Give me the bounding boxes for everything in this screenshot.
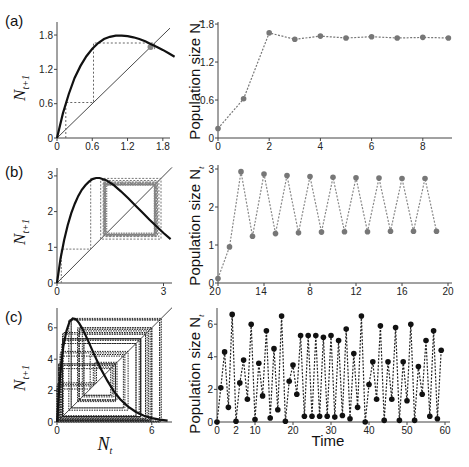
data-point	[286, 378, 292, 384]
data-point	[420, 35, 426, 41]
data-point	[328, 333, 334, 339]
data-point	[290, 362, 296, 368]
data-point	[353, 175, 359, 181]
y-tick-label: 6	[207, 319, 213, 330]
data-point	[309, 413, 315, 419]
y-tick-label: 0.6	[39, 98, 53, 109]
xlabel-time: Time	[312, 432, 345, 449]
x-tick-label: 60	[439, 425, 451, 436]
xlabel-left-c: Nt	[97, 434, 113, 456]
x-tick-label: 6	[149, 425, 155, 436]
timeseries-plot-3	[215, 169, 439, 281]
axes-1: 0246800.61.21.8	[200, 19, 452, 152]
data-point	[365, 229, 371, 235]
data-point	[222, 349, 228, 355]
y-tick-label: 1	[47, 242, 53, 253]
ylabel-left-b: Nt+1	[10, 219, 31, 246]
data-point	[388, 229, 394, 235]
x-tick-label: 8	[420, 141, 426, 152]
x-tick-label: 4	[261, 286, 267, 297]
data-point	[292, 36, 298, 42]
ylabel-left-c: Nt+1	[10, 365, 31, 392]
data-point	[393, 325, 399, 331]
y-tick-label: 0	[207, 417, 213, 428]
data-point	[296, 230, 302, 236]
x-tick-label: 1.8	[156, 141, 170, 152]
data-point	[381, 418, 387, 424]
data-point	[340, 413, 346, 419]
data-point	[431, 328, 437, 334]
x-tick-label: 12	[350, 286, 362, 297]
data-point	[374, 396, 380, 402]
x-tick-label: 1.2	[121, 141, 135, 152]
data-point	[330, 175, 336, 181]
data-point	[332, 414, 338, 420]
data-point	[369, 34, 375, 40]
data-point	[271, 346, 277, 352]
data-point	[419, 391, 425, 397]
x-tick-overlay-label: 1	[255, 286, 261, 297]
data-point	[423, 338, 429, 344]
svg-text:Population size Nt: Population size Nt	[186, 20, 206, 140]
data-point	[317, 413, 323, 419]
y-tick-label: 1.2	[39, 64, 53, 75]
data-point	[218, 385, 224, 391]
x-tick-label: 0	[54, 141, 60, 152]
data-point	[241, 96, 247, 102]
x-tick-label: 0	[214, 425, 220, 436]
y-tick-label: 4	[207, 351, 213, 362]
data-point	[273, 231, 279, 237]
svg-text:Population size Nt: Population size Nt	[186, 166, 206, 286]
y-tick-label: 2	[207, 384, 213, 395]
y-tick-label: 1	[208, 240, 214, 251]
x-tick-label: 20	[287, 425, 299, 436]
panel-label-c: (c)	[5, 308, 23, 325]
x-tick-label: 16	[396, 286, 408, 297]
y-tick-label: 0	[47, 133, 53, 144]
data-point	[435, 416, 441, 422]
timeseries-plot-5	[214, 312, 444, 425]
data-point	[355, 405, 361, 411]
data-point	[279, 313, 285, 319]
data-point	[321, 334, 327, 340]
x-tick-label: 8	[307, 286, 313, 297]
y-tick-label: 0	[47, 278, 53, 289]
ylabel-left-a: Nt+1	[10, 75, 31, 102]
x-tick-label: 0	[215, 141, 221, 152]
x-tick-label: 0.6	[85, 141, 99, 152]
x-tick-label: 6	[369, 141, 375, 152]
data-point	[408, 321, 414, 327]
y-tick-label: 4	[47, 354, 53, 365]
x-tick-label: 50	[401, 425, 413, 436]
data-point	[264, 328, 270, 334]
x-tick-label: 2	[266, 141, 272, 152]
y-tick-label: 2	[208, 202, 214, 213]
x-tick-label: 4	[318, 141, 324, 152]
data-point	[351, 351, 357, 357]
x-tick-label: 3	[161, 286, 167, 297]
data-point	[399, 176, 405, 182]
data-point	[397, 418, 403, 424]
panel-label-b: (b)	[5, 163, 23, 180]
x-tick-label: 0	[215, 286, 221, 297]
figure-canvas: (a) (b) (c) 00.61.21.800.61.21.803012306…	[0, 0, 469, 467]
x-tick-overlay-label: 2	[233, 425, 239, 436]
data-point	[411, 229, 417, 235]
map-plot-0	[57, 28, 175, 138]
data-point	[378, 323, 384, 329]
plots-layer: 00.61.21.800.61.21.80301230602460246800.…	[39, 19, 454, 436]
data-point	[307, 174, 313, 180]
x-tick-label: 40	[363, 425, 375, 436]
data-point	[227, 244, 233, 250]
ylabel-right-b: Population size Nt	[186, 166, 206, 286]
data-point	[238, 169, 244, 175]
data-point	[318, 33, 324, 39]
y-tick-label: 2	[47, 206, 53, 217]
data-point	[400, 359, 406, 365]
data-point	[389, 396, 395, 402]
data-point	[416, 364, 422, 370]
y-tick-label: 3	[47, 170, 53, 181]
data-point	[438, 347, 444, 353]
data-point	[336, 338, 342, 344]
data-point	[324, 413, 330, 419]
